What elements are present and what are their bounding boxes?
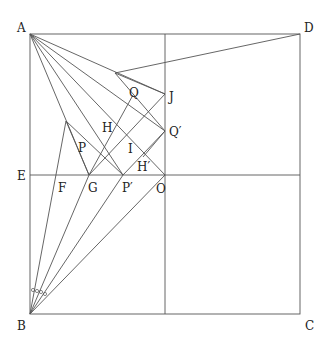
label-o: O <box>156 182 166 196</box>
label-j: J <box>167 90 174 104</box>
label-pp: P′ <box>122 181 133 195</box>
label-b: B <box>17 319 26 333</box>
label-i: I <box>128 142 133 156</box>
label-c: C <box>305 319 314 333</box>
label-hp: H′ <box>137 160 150 174</box>
label-f: F <box>58 181 66 195</box>
geometry-diagram: A D B C E F G P′ O Q J Q′ H P I H′ <box>0 0 331 342</box>
diagram-canvas: A D B C E F G P′ O Q J Q′ H P I H′ <box>0 0 331 342</box>
line-b-o <box>30 175 165 314</box>
line-b-g <box>30 175 89 314</box>
label-h: H <box>102 121 112 135</box>
label-g: G <box>88 181 98 195</box>
line-b-f <box>30 121 66 314</box>
label-d: D <box>304 21 314 35</box>
label-e: E <box>17 169 26 183</box>
label-qp: Q′ <box>169 125 182 139</box>
line-k-j <box>115 73 165 94</box>
line-k-d <box>115 34 300 73</box>
line-hp <box>143 131 165 157</box>
label-a: A <box>16 21 26 35</box>
label-q: Q <box>129 86 139 100</box>
label-p: P <box>78 141 86 155</box>
line-a-o <box>30 34 165 175</box>
